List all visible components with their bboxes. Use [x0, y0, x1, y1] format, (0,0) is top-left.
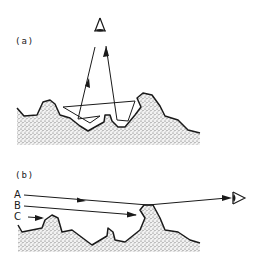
panel-b: (b) A B C: [14, 170, 245, 252]
panel-a: (a): [15, 18, 200, 145]
figure-canvas: (a) (b) A B C: [0, 0, 257, 260]
ray-a: [24, 195, 227, 205]
eye-icon: [233, 192, 245, 204]
ray-a-end-arrow-icon: [222, 195, 232, 201]
ray-c-arrow-icon: [35, 215, 44, 221]
ray-b: [24, 206, 136, 215]
ray-label-b: B: [14, 200, 21, 211]
ray-b-arrow-icon: [127, 212, 137, 218]
reflection-path-a: [63, 101, 135, 123]
arrow-up-icon: [103, 46, 109, 57]
ray-label-c: C: [14, 211, 21, 222]
panel-b-label: (b): [15, 170, 34, 180]
reflected-ray-a: [106, 46, 117, 120]
ray-label-a: A: [14, 189, 21, 200]
eye-icon: [94, 18, 106, 32]
panel-a-label: (a): [15, 36, 34, 46]
